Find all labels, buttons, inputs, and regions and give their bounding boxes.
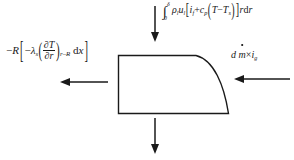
derivative-paren-close: ): [56, 40, 60, 60]
evaluation-subscript: r–R: [60, 50, 70, 57]
vapour-enthalpy-subscript: g: [254, 54, 257, 61]
partial-derivative-fraction: ∂T∂r: [43, 40, 56, 62]
overdot-accent: [241, 44, 243, 46]
control-volume-shape: [114, 50, 234, 120]
arrow-right-head: [234, 75, 244, 83]
arrow-top: [140, 4, 170, 44]
diagram-canvas: ∫δ0ρlul[if+cp(T−Ts)]rdr −R[−λs(∂T∂r)r–R …: [0, 0, 294, 160]
arrow-bottom: [140, 116, 170, 156]
paren-open: (: [208, 1, 211, 20]
bracket-close: ]: [236, 2, 239, 19]
differential-variable: r: [248, 4, 252, 15]
outer-bracket-close: ]: [84, 38, 87, 64]
mass-flow-rate-symbol: m: [239, 50, 246, 60]
wall-conduction-heat-flux-label: −R[−λs(∂T∂r)r–R dx]: [6, 40, 89, 62]
denominator-variable: r: [50, 50, 54, 61]
derivative-paren-open: (: [39, 40, 43, 60]
paren-close: ): [231, 1, 234, 20]
outer-bracket-open: [: [20, 38, 23, 64]
arrow-left-head: [60, 78, 70, 86]
arrow-bottom-head: [151, 144, 159, 154]
bracket-open: [: [186, 2, 189, 19]
liquid-film-enthalpy-influx-label: ∫δ0ρlul[if+cp(T−Ts)]rdr: [163, 5, 252, 17]
vapour-mass-enthalpy-influx-label: d m×ig: [231, 50, 257, 61]
differential-variable-left: x: [79, 44, 84, 56]
control-volume-outline: [119, 56, 229, 114]
arrow-right: [232, 69, 292, 89]
fraction-denominator: ∂r: [43, 51, 56, 62]
radius-symbol: R: [12, 44, 19, 56]
mass-symbol: m: [239, 49, 246, 60]
numerator-variable: T: [49, 39, 55, 50]
arrow-top-head: [151, 32, 159, 42]
arrow-left: [58, 72, 110, 92]
